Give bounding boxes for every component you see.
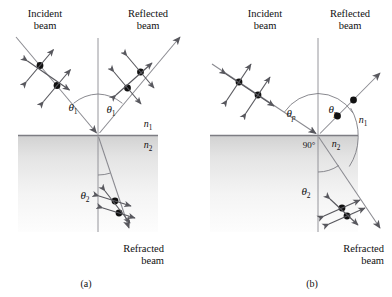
index-n1-label: n1 [351, 114, 375, 128]
right-angle-label: 90° [296, 139, 322, 151]
reflected-beam-label: Reflected beam [310, 8, 390, 33]
incident-beam-label: Incident beam [228, 8, 302, 33]
polarization-arrow [127, 56, 154, 88]
panel-caption-b: (b) [292, 278, 332, 290]
reflected-beam-label: Reflected beam [108, 8, 188, 33]
panel-caption-a: (a) [66, 278, 106, 290]
angle-thetap-reflected-label: θp [321, 103, 345, 119]
angle-thetap-incident-label: θp [279, 107, 303, 123]
angle-theta1-incident-label: θ1 [62, 101, 84, 117]
polarization-dot [350, 97, 357, 104]
reflected-angle-arc [98, 94, 122, 103]
index-n2-label: n2 [324, 138, 348, 152]
refracted-beam-label: Refracted beam [300, 243, 384, 268]
index-n2-label: n2 [136, 139, 160, 153]
angle-theta2-label: θ2 [74, 189, 96, 205]
optics-figure: Incident beam Reflected beam θ1 θ1 θ2 n1… [0, 0, 392, 297]
panel-a: Incident beam Reflected beam θ1 θ1 θ2 n1… [0, 0, 196, 297]
polarization-arrow [28, 61, 70, 90]
index-n1-label: n1 [136, 118, 160, 132]
panel-b: Incident beam Reflected beam θp θp θ2 n1… [196, 0, 392, 297]
angle-theta1-reflected-label: θ1 [100, 103, 122, 119]
angle-theta2-label: θ2 [294, 185, 318, 201]
incident-beam-label: Incident beam [8, 8, 82, 33]
refracted-beam-label: Refracted beam [84, 243, 164, 268]
